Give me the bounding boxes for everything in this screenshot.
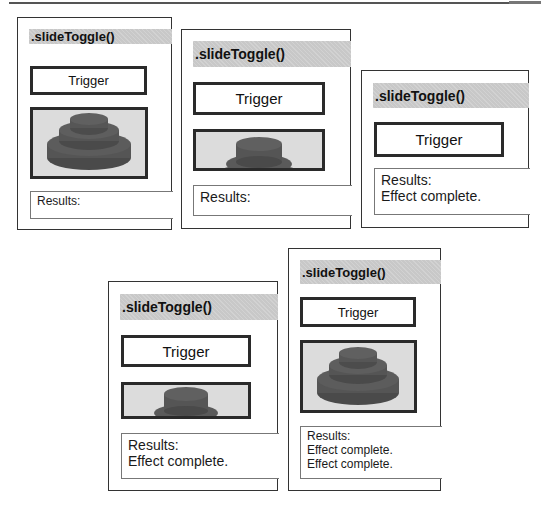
demo-panel-2: .slideToggle() Trigger Results: [181,29,351,229]
trigger-button[interactable]: Trigger [121,335,251,367]
results-line: Effect complete. [381,188,524,204]
image-container [300,340,417,413]
stacked-disc-image [303,343,414,410]
results-line: Results: [128,437,273,453]
demo-panel-5: .slideToggle() Trigger Results: Effect c… [288,248,441,491]
trigger-button[interactable]: Trigger [193,82,325,115]
results-box: Results: Effect complete. [374,168,530,215]
results-line: Effect complete. [307,458,436,472]
image-container [193,129,325,171]
results-line: Results: [37,195,167,209]
image-container [121,382,251,419]
panel-title: .slideToggle() [373,83,529,108]
results-box: Results: Effect complete. Effect complet… [300,426,442,479]
panel-title: .slideToggle() [300,260,441,284]
results-box: Results: [193,185,352,216]
demo-panel-1: .slideToggle() Trigger Results: [17,17,172,230]
panel-title: .slideToggle() [120,294,278,320]
trigger-button[interactable]: Trigger [300,297,416,327]
results-box: Results: Effect complete. [121,433,279,479]
results-line: Results: [200,189,346,205]
stacked-disc-image [196,132,322,168]
trigger-button[interactable]: Trigger [30,66,147,95]
demo-panel-3: .slideToggle() Trigger Results: Effect c… [361,70,529,228]
image-container [30,107,148,179]
results-line: Effect complete. [307,444,436,458]
results-box: Results: [30,191,173,219]
demo-panel-4: .slideToggle() Trigger Results: Effect c… [108,281,278,491]
panel-title: .slideToggle() [29,29,172,44]
results-line: Results: [307,430,436,444]
panel-title: .slideToggle() [193,41,351,67]
results-line: Results: [381,172,524,188]
top-rule [9,2,541,4]
stacked-disc-image [124,385,248,416]
top-rule-end [509,1,541,4]
results-line: Effect complete. [128,453,273,469]
stacked-disc-image [33,110,145,176]
trigger-button[interactable]: Trigger [374,122,504,157]
